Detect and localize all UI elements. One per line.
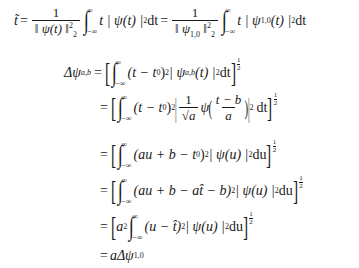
equation-line-5: = [ ∫∞−∞ (au + b − at̂ − b)2 | ψ(u) |2 d… [100, 176, 303, 206]
equation-line-6: = [ a2 ∫∞−∞ (u − t̂)2 | ψ(u) |2 du ] 12 [100, 212, 253, 242]
integral-sign: ∫∞−∞ [117, 176, 131, 206]
equation-line-7: = aΔψ1,0 [100, 248, 144, 264]
equation-t-tilde: t̃ = 1 ‖ ψ(t) ‖22 ∫∞−∞ t | ψ(t) |2 dt = … [14, 6, 306, 36]
t-tilde-symbol: t̃ [14, 13, 18, 29]
fraction-norm-psi10: 1 ‖ ψ1,0 ‖22 [172, 6, 218, 36]
equals: = [20, 13, 28, 29]
integral-sign: ∫∞−∞ [111, 58, 125, 88]
equation-line-4: = [ ∫∞−∞ (au + b − t0)2 | ψ(u) |2 du ] 1… [100, 140, 276, 170]
equation-delta-psi-ab: Δψa,b = [ ∫∞−∞ (t − t0)2 | ψa,b(t) |2 dt… [64, 58, 240, 88]
integral-sign: ∫∞−∞ [221, 6, 235, 36]
integral-sign: ∫∞−∞ [128, 212, 142, 242]
integral-sign: ∫∞−∞ [117, 140, 131, 170]
integral-sign: ∫∞−∞ [83, 6, 97, 36]
integral-sign: ∫∞−∞ [117, 93, 131, 123]
fraction-norm: 1 ‖ ψ(t) ‖22 [32, 6, 80, 36]
equation-line-3: = [ ∫∞−∞ (t − t0)2 | 1√a ψ ( t − ba ) |2… [100, 93, 277, 123]
